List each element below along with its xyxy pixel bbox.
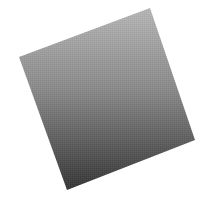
gradient-square-texture [19,8,195,190]
gradient-square-graphic [0,0,213,210]
image-canvas: rotated grey gradient square [0,0,213,210]
